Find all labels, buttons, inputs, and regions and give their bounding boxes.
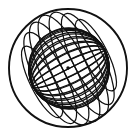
- center-marker-dot: [66, 66, 69, 69]
- sphere-wireframe-svg: Wireframe sphere with meridian great cir…: [0, 0, 138, 138]
- sphere-figure: Wireframe sphere with meridian great cir…: [0, 0, 138, 138]
